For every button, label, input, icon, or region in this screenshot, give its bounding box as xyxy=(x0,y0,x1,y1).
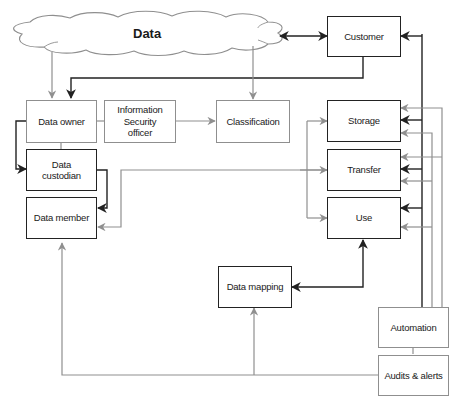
edge-transfer-member xyxy=(98,170,329,227)
edge-automation-light-bus-inner xyxy=(401,133,432,307)
audits-alerts-node[interactable]: Audits & alerts xyxy=(378,355,449,396)
data-mapping-node[interactable]: Data mapping xyxy=(218,266,292,308)
edge-custodian-member xyxy=(97,170,107,208)
edge-customer-dataowner xyxy=(71,56,363,98)
data-owner-node[interactable]: Data owner xyxy=(26,100,97,143)
transfer-node[interactable]: Transfer xyxy=(327,149,401,191)
storage-node[interactable]: Storage xyxy=(327,100,401,142)
edge-use-datamapping xyxy=(292,240,363,287)
use-node[interactable]: Use xyxy=(327,197,401,239)
data-cloud-label: Data xyxy=(133,26,161,41)
classification-node[interactable]: Classification xyxy=(216,100,290,143)
customer-node[interactable]: Customer xyxy=(327,16,401,57)
edge-dataowner-custodian xyxy=(16,121,26,169)
automation-node[interactable]: Automation xyxy=(378,307,449,348)
info-security-officer-node[interactable]: Information Security officer xyxy=(104,100,176,143)
data-member-node[interactable]: Data member xyxy=(26,197,97,239)
edge-audits-member xyxy=(62,243,379,375)
data-custodian-node[interactable]: Data custodian xyxy=(26,149,97,191)
